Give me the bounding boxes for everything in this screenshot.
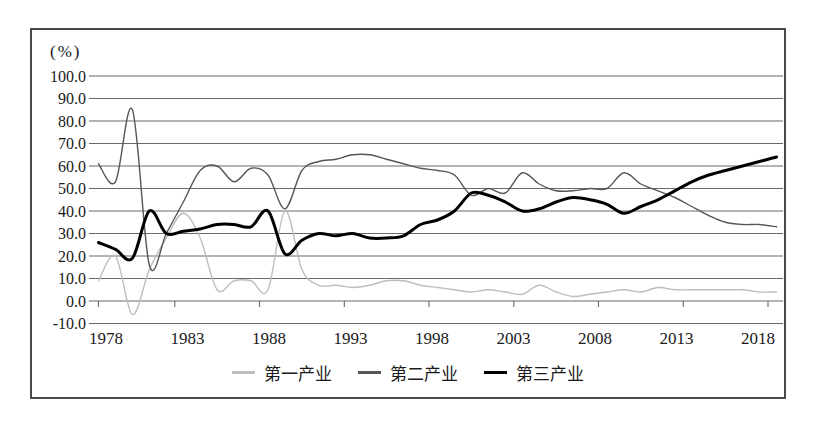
y-axis-tick-label: 70.0 — [58, 135, 86, 152]
legend-label-tertiary: 第三产业 — [516, 360, 584, 385]
x-axis-tick-label: 1983 — [171, 329, 205, 348]
y-axis-tick-label: 80.0 — [58, 113, 86, 130]
legend-label-secondary: 第二产业 — [390, 360, 458, 385]
tertiary-series-line-icon — [484, 371, 507, 374]
x-axis-tick-label: 1998 — [415, 329, 449, 348]
x-axis-tick-label: 2008 — [578, 329, 612, 348]
y-axis-unit-label: (%) — [50, 42, 81, 62]
primary-series-line-icon — [232, 371, 255, 373]
y-axis-tick-label: 20.0 — [58, 248, 86, 265]
x-axis-tick-label: 2013 — [660, 329, 694, 348]
secondary-series-line-icon — [358, 371, 381, 373]
tertiary-series-path — [99, 157, 777, 260]
y-axis-tick-label: 60.0 — [58, 158, 86, 175]
x-axis-tick-label: 2018 — [741, 329, 775, 348]
primary-series-path — [99, 211, 777, 315]
figure: 100.090.080.070.060.050.040.030.020.010.… — [0, 0, 815, 429]
y-axis-tick-label: 100.0 — [50, 68, 86, 85]
x-axis-tick-label: 1988 — [252, 329, 286, 348]
legend-item-primary-industry: 第一产业 — [232, 360, 332, 385]
legend: 第一产业 第二产业 第三产业 — [30, 360, 786, 385]
y-axis-tick-label: 30.0 — [58, 225, 86, 242]
y-axis-tick-label: 90.0 — [58, 90, 86, 107]
y-axis-tick-label: 10.0 — [58, 270, 86, 287]
x-axis-tick-label: 1978 — [89, 329, 123, 348]
legend-item-tertiary-industry: 第三产业 — [484, 360, 584, 385]
x-axis-tick-label: 2003 — [497, 329, 531, 348]
y-axis-tick-label: 50.0 — [58, 180, 86, 197]
y-axis-tick-label: 40.0 — [58, 203, 86, 220]
legend-label-primary: 第一产业 — [264, 360, 332, 385]
x-axis-tick-label: 1993 — [334, 329, 368, 348]
y-axis-tick-label: 0.0 — [66, 293, 86, 310]
y-axis-tick-label: -10.0 — [53, 315, 86, 332]
legend-item-secondary-industry: 第二产业 — [358, 360, 458, 385]
